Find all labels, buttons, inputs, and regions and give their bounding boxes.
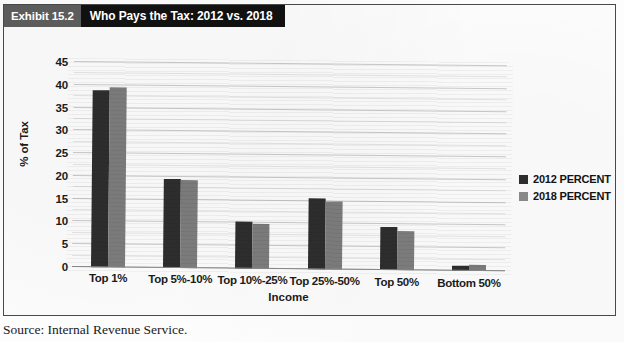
bar-chart: % of Tax 051015202530354045 Top 1%Top 5%… (0, 0, 613, 312)
bar-2018 (325, 201, 343, 269)
y-axis-tick-label: 35 (56, 102, 68, 114)
y-axis-tick-label: 45 (56, 56, 68, 68)
y-axis-tick-label: 20 (56, 170, 68, 182)
x-axis-title: Income (72, 291, 505, 303)
bar-2012 (91, 90, 110, 267)
y-axis-tick-labels: 051015202530354045 (30, 55, 68, 274)
legend-label: 2012 PERCENT (533, 173, 611, 185)
x-axis-tick-label: Top 25%-50% (289, 275, 361, 287)
bar-group (308, 64, 344, 269)
y-axis-tick-label: 10 (56, 215, 68, 227)
y-axis-tick-label: 15 (56, 193, 68, 205)
legend-swatch-icon (519, 175, 528, 184)
x-axis-tick-label: Top 10%-25% (216, 274, 288, 286)
bar-group (163, 63, 199, 268)
bar-2018 (397, 231, 414, 270)
x-axis-tick-labels: Top 1%Top 5%-10%Top 10%-25%Top 25%-50%To… (72, 272, 512, 292)
x-axis-tick-label: Top 1% (72, 272, 144, 284)
bars-layer (72, 62, 507, 271)
plot-area (72, 62, 507, 271)
source-caption: Source: Internal Revenue Service. (3, 322, 187, 338)
y-axis-tick-label: 30 (56, 124, 68, 136)
bar-group (380, 65, 416, 270)
bar-2012 (235, 221, 252, 269)
y-axis-tick-label: 5 (62, 238, 68, 250)
bar-group (452, 66, 488, 271)
x-axis-tick-label: Top 5%-10% (144, 273, 216, 285)
legend-swatch-icon (519, 192, 528, 201)
legend-item: 2018 PERCENT (519, 190, 611, 202)
exhibit-number-label: Exhibit 15.2 (4, 5, 81, 27)
legend-label: 2018 PERCENT (533, 190, 611, 202)
y-axis-title: % of Tax (18, 99, 30, 189)
chart-legend: 2012 PERCENT2018 PERCENT (519, 173, 611, 207)
x-axis-tick-label: Top 50% (361, 276, 433, 288)
bar-group (235, 64, 271, 269)
x-axis-tick-label: Bottom 50% (433, 277, 505, 289)
exhibit-banner: Exhibit 15.2 Who Pays the Tax: 2012 vs. … (4, 5, 285, 27)
legend-item: 2012 PERCENT (519, 173, 611, 185)
y-axis-tick-label: 25 (56, 147, 68, 159)
bar-2012 (163, 179, 181, 268)
exhibit-title-label: Who Pays the Tax: 2012 vs. 2018 (81, 5, 285, 27)
bar-2012 (308, 199, 326, 270)
bar-2018 (180, 180, 198, 269)
bar-2018 (252, 224, 269, 269)
bar-2012 (380, 227, 397, 270)
bar-group (91, 62, 127, 267)
y-axis-tick-label: 0 (62, 261, 68, 273)
y-axis-tick-label: 40 (56, 79, 68, 91)
bar-2018 (108, 87, 127, 268)
